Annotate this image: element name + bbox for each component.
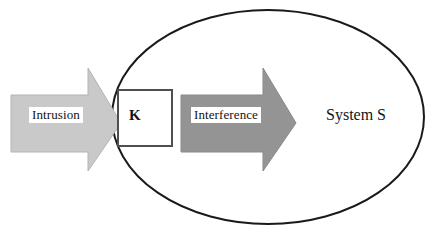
interference-label: Interference (191, 107, 261, 123)
k-box-label: K (129, 108, 141, 123)
k-box-shape (118, 90, 172, 146)
system-ellipse-label: System S (326, 107, 386, 123)
diagram-canvas: Intrusion K Interference System S (0, 0, 434, 235)
intrusion-label: Intrusion (29, 107, 83, 123)
